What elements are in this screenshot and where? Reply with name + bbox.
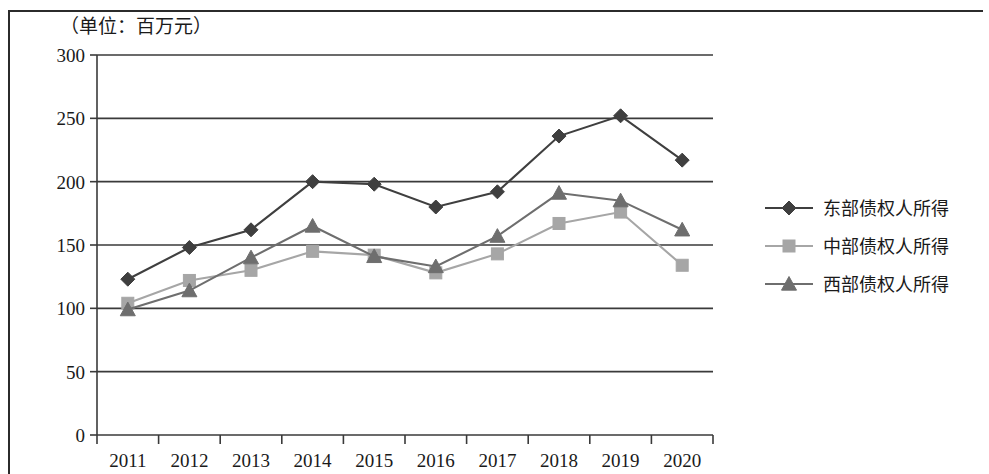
y-tick-label: 150 [57, 235, 86, 256]
x-axis-ticks [97, 435, 713, 444]
legend-label: 中部债权人所得 [823, 237, 949, 257]
x-axis-labels: 2011201220132014201520162017201820192020 [109, 450, 701, 471]
data-point-marker [491, 248, 503, 260]
legend-marker [783, 240, 795, 252]
x-tick-label: 2011 [109, 450, 146, 471]
x-tick-label: 2012 [170, 450, 208, 471]
data-point-marker [244, 250, 259, 264]
data-point-marker [552, 186, 567, 200]
data-point-marker [307, 245, 319, 257]
x-tick-label: 2014 [294, 450, 333, 471]
legend-label: 东部债权人所得 [823, 199, 949, 219]
line-chart: （单位：百万元） 050100150200250300 201120122013… [0, 0, 989, 474]
x-tick-label: 2013 [232, 450, 270, 471]
data-point-marker [429, 200, 443, 214]
data-point-marker [553, 217, 565, 229]
data-point-marker [121, 272, 135, 286]
unit-title: （单位：百万元） [60, 16, 212, 37]
legend-label: 西部债权人所得 [823, 275, 949, 295]
legend-marker [782, 201, 796, 215]
chart-figure: （单位：百万元） 050100150200250300 201120122013… [0, 0, 989, 474]
data-point-marker [182, 241, 196, 255]
x-tick-label: 2017 [478, 450, 516, 471]
data-point-marker [675, 222, 690, 236]
y-tick-label: 200 [57, 172, 86, 193]
x-tick-label: 2015 [355, 450, 393, 471]
data-point-marker [614, 109, 628, 123]
data-point-marker [367, 177, 381, 191]
x-tick-label: 2016 [417, 450, 455, 471]
y-axis-labels: 050100150200250300 [57, 45, 86, 446]
y-tick-label: 0 [76, 425, 86, 446]
x-tick-label: 2018 [540, 450, 578, 471]
y-tick-label: 300 [57, 45, 86, 66]
data-point-marker [305, 219, 320, 233]
series-line [128, 212, 682, 303]
data-point-marker [676, 259, 688, 271]
y-tick-label: 100 [57, 298, 86, 319]
chart-legend: 东部债权人所得中部债权人所得西部债权人所得 [765, 199, 949, 295]
series-group [120, 109, 689, 316]
data-point-marker [245, 264, 257, 276]
data-point-marker [675, 153, 689, 167]
y-tick-label: 50 [66, 362, 85, 383]
x-tick-label: 2020 [663, 450, 701, 471]
x-tick-label: 2019 [602, 450, 640, 471]
y-axis-ticks [90, 55, 97, 435]
y-tick-label: 250 [57, 108, 86, 129]
data-point-marker [490, 229, 505, 243]
data-point-marker [615, 206, 627, 218]
series-line [128, 193, 682, 310]
